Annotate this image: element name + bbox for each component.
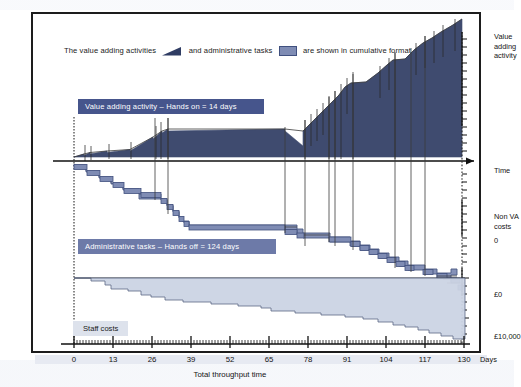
value-adding-area: [74, 19, 462, 157]
x-axis-title: Total throughput time: [194, 370, 267, 379]
axis-label-va-line-1: Value: [494, 32, 517, 42]
tag-value-adding-activity: Value adding activity – Hands on = 14 da…: [78, 99, 264, 114]
x-axis-unit-days: Days: [480, 355, 497, 365]
axis-tick-label-pound-zero: £0: [494, 290, 502, 300]
x-tick-label-104: 104: [379, 355, 392, 364]
x-tick-label-39: 39: [187, 355, 196, 364]
x-tick-label-78: 78: [304, 355, 313, 364]
axis-label-time: Time: [494, 166, 510, 176]
legend-text-1: The value adding activities: [64, 46, 156, 55]
administrative-rect-swatch-icon: [279, 46, 297, 56]
x-tick-label-13: 13: [109, 355, 118, 364]
axis-tick-label-nonva-zero: 0: [494, 236, 498, 246]
axis-label-nonva-line-1: Non VA: [494, 212, 519, 222]
administrative-plateaus: [74, 165, 463, 291]
x-tick-label-117: 117: [419, 355, 431, 364]
x-axis-major-ticks: [74, 336, 464, 348]
x-tick-label-26: 26: [148, 355, 157, 364]
axis-label-non-va-costs: Non VA costs: [494, 212, 519, 231]
chart-canvas: [33, 14, 483, 355]
tag-administrative-tasks: Administrative tasks – Hands off = 124 d…: [78, 239, 276, 254]
axis-label-nonva-line-2: costs: [494, 222, 519, 232]
axis-tick-label-pound-10000: £10,000: [494, 332, 521, 342]
x-tick-label-0: 0: [72, 355, 76, 364]
x-tick-label-130: 130: [457, 355, 470, 364]
axis-label-va-line-2: adding: [494, 42, 517, 52]
value-adding-series: [74, 19, 462, 161]
legend-text-2: and administrative tasks: [189, 46, 273, 55]
staff-costs-area: [74, 278, 465, 339]
value-adding-triangle-swatch-icon: [162, 47, 182, 56]
legend-row: The value adding activities and administ…: [64, 46, 411, 56]
tag-staff-costs: Staff costs: [73, 321, 128, 336]
staff-costs-series: [74, 278, 465, 339]
x-tick-label-52: 52: [226, 355, 235, 364]
legend-text-3: are shown in cumulative format: [303, 46, 411, 55]
x-tick-label-65: 65: [265, 355, 274, 364]
x-axis: [61, 336, 470, 348]
axis-label-va-line-3: activity: [494, 51, 517, 61]
x-tick-label-91: 91: [343, 355, 352, 364]
figure-frame: The value adding activities and administ…: [31, 12, 481, 353]
axis-label-value-adding-activity: Value adding activity: [494, 32, 517, 61]
